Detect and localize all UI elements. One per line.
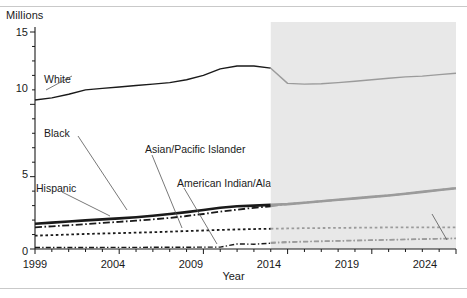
leader-line-1 <box>78 136 127 210</box>
line-hispanic-historical <box>35 205 271 224</box>
leader-line-2 <box>62 192 110 216</box>
chart-plot-area <box>0 0 467 298</box>
leader-line-0 <box>46 76 72 90</box>
line-white-historical <box>35 66 271 100</box>
projected-band <box>271 22 456 249</box>
chart-figure: Millions Year 15 10 5 0 1999 2004 2009 2… <box>0 0 467 298</box>
line-american-indian-alaska-native-historical <box>35 243 271 247</box>
leader-line-3 <box>152 155 182 228</box>
line-asian-pacific-islander-historical <box>35 229 271 236</box>
